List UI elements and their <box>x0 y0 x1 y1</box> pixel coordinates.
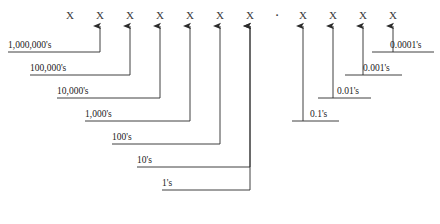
decimal-point: · <box>270 10 284 21</box>
connector-lines <box>8 26 434 190</box>
place-label-right-3: 0.1's <box>310 109 327 119</box>
place-label-left-6: 1's <box>162 178 172 188</box>
digit-placeholder-9: X <box>356 10 370 21</box>
digit-placeholder-0: X <box>63 10 77 21</box>
place-value-diagram: XXXXXXXXXXX· 1,000,000's100,000's10,000'… <box>0 0 440 224</box>
digit-placeholder-6: X <box>243 10 257 21</box>
place-label-right-2: 0.01's <box>337 86 359 96</box>
digit-placeholder-7: X <box>296 10 310 21</box>
digit-placeholder-3: X <box>153 10 167 21</box>
digit-placeholder-5: X <box>213 10 227 21</box>
place-label-left-0: 1,000,000's <box>8 40 51 50</box>
place-label-left-4: 100's <box>112 132 132 142</box>
place-label-left-3: 1,000's <box>85 109 112 119</box>
digit-placeholder-8: X <box>326 10 340 21</box>
place-label-right-0: 0.0001's <box>390 40 422 50</box>
digit-placeholder-10: X <box>386 10 400 21</box>
diagram-canvas <box>0 0 440 224</box>
place-label-left-5: 10's <box>137 155 152 165</box>
digit-placeholder-2: X <box>123 10 137 21</box>
place-label-right-1: 0.001's <box>363 63 390 73</box>
digit-placeholder-1: X <box>93 10 107 21</box>
digit-placeholder-4: X <box>183 10 197 21</box>
place-label-left-1: 100,000's <box>30 63 66 73</box>
place-label-left-2: 10,000's <box>57 86 89 96</box>
